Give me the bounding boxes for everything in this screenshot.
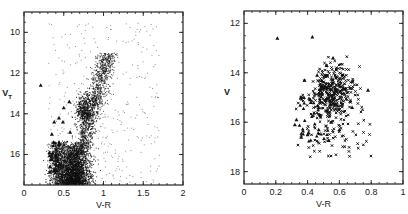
x-tick-label: 0.6 [333, 187, 346, 197]
cross-marker [347, 114, 349, 116]
left-scatter-plot: 00.511.5210121416V-RVT [0, 0, 204, 214]
triangle-marker [275, 36, 279, 40]
cross-marker [317, 141, 319, 143]
cross-marker [316, 93, 318, 95]
triangle-marker [62, 106, 66, 110]
cross-marker [370, 155, 372, 157]
cross-marker [322, 107, 324, 109]
triangle-marker [61, 120, 65, 124]
cross-marker [339, 110, 341, 112]
cross-marker [345, 115, 347, 117]
triangle-marker [303, 119, 307, 122]
cross-marker [295, 108, 297, 110]
cross-marker [356, 142, 358, 144]
cross-marker [327, 56, 329, 58]
cross-marker [365, 140, 367, 142]
cross-marker [332, 137, 334, 139]
cross-marker [353, 84, 355, 86]
cross-marker [331, 68, 333, 70]
cross-marker [336, 99, 338, 101]
cross-marker [360, 106, 362, 108]
cross-marker [368, 133, 370, 135]
y-axis-label: V [224, 87, 230, 97]
cross-marker [326, 137, 328, 139]
cross-marker [314, 99, 316, 101]
cross-marker [333, 60, 335, 62]
y-tick-label: 16 [230, 117, 240, 127]
y-tick-label: 16 [10, 149, 20, 159]
cross-marker [297, 144, 299, 146]
cross-marker [323, 141, 325, 143]
x-axis-label: V-R [316, 199, 332, 209]
cross-marker [327, 155, 329, 157]
y-tick-label: 12 [230, 18, 240, 28]
x-tick-label: 0 [21, 188, 26, 198]
dot-points [43, 23, 160, 185]
x-tick-label: 1 [101, 188, 106, 198]
cross-marker [345, 68, 347, 70]
cross-marker [328, 133, 330, 135]
cross-marker [362, 144, 364, 146]
triangle-marker [310, 35, 314, 39]
x-tick-label: 1 [400, 187, 405, 197]
y-tick-label: 18 [230, 167, 240, 177]
cross-marker [297, 102, 299, 104]
cross-marker [324, 69, 326, 71]
y-tick-label: 14 [10, 109, 20, 119]
triangle-marker [317, 128, 321, 132]
x-tick-label: 0 [241, 187, 246, 197]
triangle-marker [366, 88, 370, 92]
cross-marker [312, 144, 314, 146]
x-tick-label: 0.4 [301, 187, 314, 197]
cross-marker [357, 123, 359, 125]
cross-marker [318, 150, 320, 152]
cross-marker [362, 131, 364, 133]
cross-marker [330, 66, 332, 68]
cross-marker [324, 129, 326, 131]
right-scatter-plot: 00.20.40.60.8112141618V-RV [204, 0, 408, 214]
cross-marker [320, 107, 322, 109]
cross-marker [355, 134, 357, 136]
triangle-marker [293, 123, 297, 127]
cross-marker [347, 79, 349, 81]
cross-marker [348, 68, 350, 70]
cross-marker [308, 146, 310, 148]
cross-marker [358, 65, 360, 67]
y-tick-label: 14 [230, 68, 240, 78]
cross-marker [359, 87, 361, 89]
cross-marker [356, 84, 358, 86]
triangle-marker [309, 139, 313, 142]
cross-marker [351, 78, 353, 80]
cross-marker [352, 130, 354, 132]
cross-marker [354, 90, 356, 92]
triangle-marker [315, 73, 319, 77]
triangle-marker [68, 130, 72, 134]
cross-marker [344, 79, 346, 81]
cross-marker [357, 98, 359, 100]
triangle-marker [57, 116, 61, 120]
cross-marker [347, 95, 349, 97]
triangle-marker [299, 135, 303, 139]
triangle-marker [298, 124, 302, 127]
cross-marker [329, 61, 331, 63]
cross-marker [310, 134, 312, 136]
triangle-marker [52, 120, 56, 124]
cross-marker [342, 123, 344, 125]
cross-marker [357, 102, 359, 104]
cross-marker [348, 155, 350, 157]
cross-marker [363, 119, 365, 121]
right-chart: 00.20.40.60.8112141618V-RV [204, 0, 408, 214]
triangle-marker [67, 100, 71, 104]
cross-marker [343, 119, 345, 121]
cross-marker [319, 120, 321, 122]
cross-marker [357, 94, 359, 96]
cross-marker [313, 150, 315, 152]
x-tick-label: 0.2 [270, 187, 283, 197]
cross-marker [340, 118, 342, 120]
cross-marker [330, 155, 332, 157]
y-tick-label: 10 [10, 27, 20, 37]
x-tick-label: 1.5 [137, 188, 150, 198]
cross-marker [306, 104, 308, 106]
y-tick-label: 12 [10, 68, 20, 78]
x-tick-label: 2 [180, 188, 185, 198]
